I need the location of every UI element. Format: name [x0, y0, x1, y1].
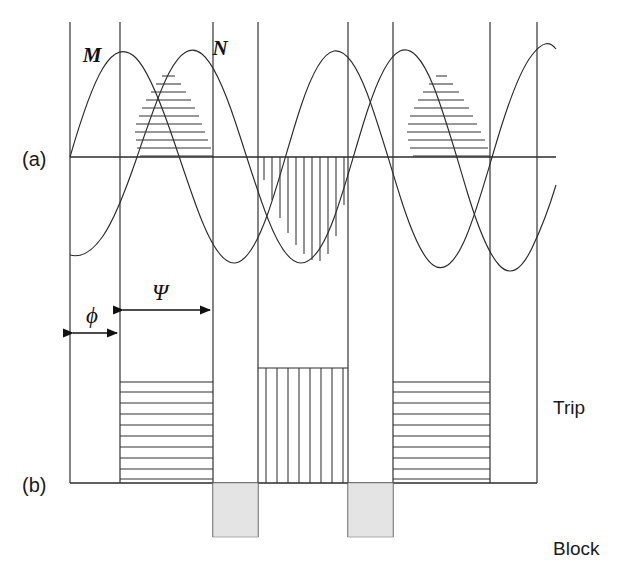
- block-bar-1: [213, 483, 258, 537]
- phi-label: ϕ: [86, 303, 98, 328]
- psi-label: Ψ: [152, 280, 170, 305]
- waveform-m-label: M: [82, 43, 103, 67]
- panel-b-label: (b): [22, 474, 46, 496]
- panel-a-label: (a): [22, 148, 46, 170]
- block-label: Block: [553, 538, 600, 559]
- trip-label: Trip: [553, 397, 585, 418]
- block-bar-2: [348, 483, 393, 537]
- waveform-overlap-diagram: (a) M N Ψ ϕ: [0, 0, 625, 577]
- waveform-n-label: N: [211, 36, 228, 60]
